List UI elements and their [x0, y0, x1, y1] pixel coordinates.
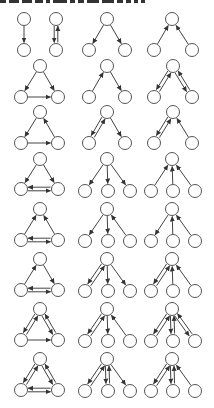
- graph-node: [189, 185, 202, 198]
- graph-node: [167, 185, 180, 198]
- graph-node: [119, 44, 132, 57]
- edge-arrow: [176, 165, 191, 185]
- edge-arrow: [176, 215, 191, 235]
- motif-r7c3: [145, 303, 202, 348]
- edge-arrow: [105, 366, 106, 384]
- graph-node: [15, 91, 28, 104]
- graph-node: [166, 203, 179, 216]
- edge-arrow: [170, 366, 171, 384]
- edge-arrow: [111, 365, 126, 385]
- motif-r5c3: [145, 203, 202, 248]
- graph-node: [119, 91, 132, 104]
- graph-node: [15, 384, 28, 397]
- motif-r3c3: [148, 106, 199, 150]
- edge-arrow: [111, 265, 126, 285]
- graph-node: [15, 284, 28, 297]
- graph-node: [124, 285, 137, 298]
- edge-arrow: [178, 314, 193, 334]
- graph-node: [101, 353, 114, 366]
- edge-arrow: [44, 165, 55, 183]
- motif-r5c2: [79, 203, 137, 248]
- edge-arrow: [25, 265, 36, 284]
- edge-arrow: [25, 215, 36, 234]
- graph-node: [189, 335, 202, 348]
- motif-r7c2: [79, 303, 137, 348]
- graph-node: [145, 185, 158, 198]
- graph-node: [145, 385, 158, 398]
- graph-node: [102, 235, 115, 248]
- motif-r3c2: [83, 106, 132, 150]
- graph-node: [166, 353, 179, 366]
- motif-r1c1: [18, 13, 31, 57]
- graph-node: [124, 385, 137, 398]
- motif-diagram: [0, 0, 214, 408]
- motif-r6c3: [145, 253, 202, 298]
- graph-node: [102, 335, 115, 348]
- motif-r3c1: [15, 106, 65, 150]
- edge-arrow: [174, 316, 175, 334]
- edge-arrow: [111, 315, 126, 335]
- edge-arrow: [111, 165, 126, 185]
- graph-node: [189, 235, 202, 248]
- graph-node: [52, 334, 65, 347]
- edge-arrow: [107, 316, 108, 334]
- graph-node: [79, 285, 92, 298]
- graph-node: [34, 203, 47, 216]
- edge-arrow: [174, 366, 175, 384]
- graph-node: [102, 385, 115, 398]
- graph-node: [167, 335, 180, 348]
- edge-arrow: [25, 72, 36, 91]
- edge-arrow: [89, 215, 103, 235]
- edge-arrow: [44, 72, 55, 90]
- motif-r8c1: [15, 353, 65, 397]
- edge-arrow: [111, 118, 122, 136]
- edge-arrow: [172, 216, 173, 234]
- edge-arrow: [109, 366, 110, 384]
- edge-arrow: [111, 25, 122, 43]
- graph-node: [166, 253, 179, 266]
- edge-arrow: [172, 166, 173, 184]
- edge-arrow: [25, 165, 36, 183]
- graph-node: [83, 91, 96, 104]
- edge-arrow: [176, 265, 191, 285]
- graph-node: [148, 44, 161, 57]
- edge-arrow: [170, 316, 171, 334]
- graph-node: [101, 13, 114, 26]
- edge-arrow: [44, 265, 55, 283]
- graph-node: [189, 285, 202, 298]
- graph-node: [15, 137, 28, 150]
- edge-arrow: [111, 72, 122, 90]
- motif-r5c1: [15, 203, 65, 247]
- graph-node: [34, 253, 47, 266]
- graph-node: [167, 235, 180, 248]
- motif-r8c3: [145, 353, 202, 398]
- graph-node: [79, 385, 92, 398]
- graph-node: [18, 44, 31, 57]
- graph-node: [79, 335, 92, 348]
- graph-node: [145, 335, 158, 348]
- graph-node: [186, 137, 199, 150]
- graph-node: [167, 285, 180, 298]
- graph-node: [34, 303, 47, 316]
- edge-arrow: [158, 25, 169, 43]
- graph-node: [15, 234, 28, 247]
- edge-arrow: [172, 266, 173, 284]
- graph-node: [34, 153, 47, 166]
- motif-r6c2: [79, 253, 137, 298]
- graph-node: [186, 44, 199, 57]
- graph-node: [101, 303, 114, 316]
- graph-node: [34, 353, 47, 366]
- graph-node: [145, 285, 158, 298]
- edge-arrow: [107, 166, 108, 184]
- motif-r8c2: [79, 353, 137, 398]
- graph-node: [186, 91, 199, 104]
- graph-node: [102, 285, 115, 298]
- graph-node: [101, 253, 114, 266]
- motif-r4c3: [145, 153, 202, 198]
- edge-arrow: [176, 25, 188, 44]
- graph-node: [50, 13, 63, 26]
- graph-node: [167, 385, 180, 398]
- graph-node: [167, 60, 180, 73]
- edge-arrow: [25, 118, 36, 137]
- graph-node: [145, 235, 158, 248]
